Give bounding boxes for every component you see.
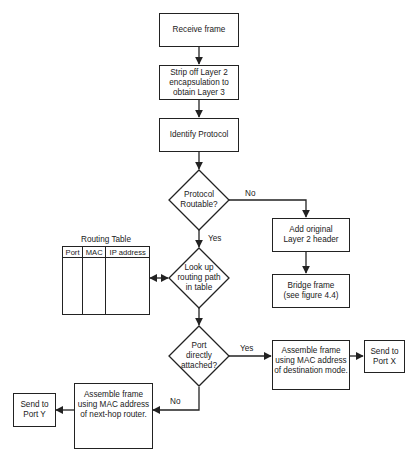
node-label: Send to Port X — [370, 347, 398, 367]
node-label: Add original Layer 2 header — [283, 225, 338, 245]
node-assemble-nexthop: Assemble frame using MAC address of next… — [74, 383, 153, 449]
routing-table-title: Routing Table — [62, 235, 150, 245]
node-label: Assemble frame using MAC address of next… — [78, 390, 149, 420]
routing-table-col-port: Port — [63, 247, 83, 258]
edge-label-attached-no: No — [170, 397, 180, 407]
routing-table-cell — [106, 258, 150, 315]
node-label: Bridge frame (see figure 4.4) — [283, 281, 338, 301]
node-receive-frame: Receive frame — [159, 13, 239, 47]
routing-table-col-mac: MAC — [83, 247, 106, 258]
node-assemble-dest: Assemble frame using MAC address of dest… — [272, 340, 350, 390]
node-identify-protocol: Identify Protocol — [159, 118, 239, 152]
node-send-port-y: Send to Port Y — [13, 393, 56, 427]
node-label: Strip off Layer 2 encapsulation to obtai… — [169, 68, 229, 98]
routing-table-cell — [83, 258, 106, 315]
decision-protocol-routable-label: Protocol Routable? — [169, 185, 229, 215]
decision-lookup-routing-label: Look up routing path in table — [169, 263, 229, 293]
node-add-layer2-header: Add original Layer 2 header — [272, 218, 350, 252]
decision-port-attached-label: Port directly attached? — [169, 341, 229, 371]
routing-table: Port MAC IP address — [62, 246, 150, 315]
edge-label-attached-yes: Yes — [240, 344, 253, 354]
node-label: Send to Port Y — [20, 400, 48, 420]
edge-label-routable-no: No — [245, 189, 255, 199]
routing-table-cell — [63, 258, 83, 315]
node-label: Assemble frame using MAC address of dest… — [274, 346, 348, 376]
node-label: Identify Protocol — [170, 130, 229, 140]
node-send-port-x: Send to Port X — [364, 340, 405, 373]
edge-label-routable-yes: Yes — [208, 234, 221, 244]
node-bridge-frame: Bridge frame (see figure 4.4) — [272, 274, 350, 308]
routing-table-col-ip: IP address — [106, 247, 150, 258]
arrow-routable-no — [229, 200, 306, 217]
node-label: Receive frame — [173, 25, 226, 35]
node-strip-layer2: Strip off Layer 2 encapsulation to obtai… — [159, 65, 239, 100]
